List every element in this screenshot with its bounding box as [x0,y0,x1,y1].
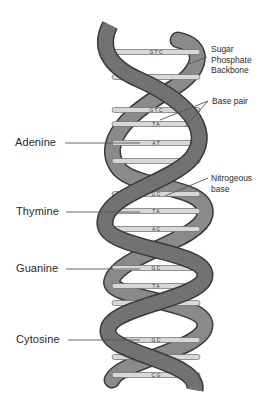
label-thymine: Thymine [16,205,59,217]
label-backbone-line-2: Phosphate [211,55,252,66]
base-pair-letters: A C [152,226,160,232]
label-base-pair: Base pair [212,96,248,107]
base-pair-letters: G T C [149,107,163,113]
label-guanine: Guanine [16,262,58,274]
base-pair-letters: T A [152,283,160,289]
base-pair-letters: T A [152,121,160,127]
base-pair-letters: G T C [149,49,163,55]
label-sugar-phosphate-backbone: Sugar Phosphate Backbone [211,44,252,76]
base-pair-letters: G C [152,337,161,343]
label-backbone-line-3: Backbone [211,65,252,76]
base-pair-letters: C G [152,372,161,378]
base-pair-letters: T A [152,208,160,214]
label-nitrogeous-line-1: Nitrogeous [211,173,252,184]
base-pair-letters: A T [152,140,159,146]
label-adenine: Adenine [15,136,56,148]
base-pair-letters: G C [152,265,161,271]
label-backbone-line-1: Sugar [211,44,252,55]
label-nitrogeous-base: Nitrogeous base [211,173,252,194]
label-cytosine: Cytosine [16,333,60,345]
label-nitrogeous-line-2: base [211,184,252,195]
